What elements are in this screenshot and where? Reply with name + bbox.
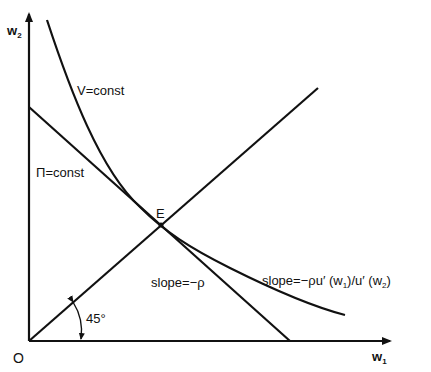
diagram-canvas (0, 0, 431, 372)
x-axis-label: w1 (372, 350, 387, 363)
v-const-label: V=const (77, 84, 124, 97)
v-const-curve (47, 20, 345, 315)
angle-label: 45° (86, 312, 106, 325)
slope-pi-label: slope=−ρ (151, 276, 205, 289)
slope-v-label: slope=−ρu′ (w1)/u′ (w2) (262, 274, 391, 287)
y-axis-label: w2 (7, 24, 22, 37)
45-degree-ray (29, 88, 318, 341)
pi-const-label: Π=const (36, 166, 84, 179)
point-e-marker (159, 223, 164, 228)
origin-label: O (13, 351, 24, 365)
point-e-label: E (156, 207, 165, 220)
angle-arc (73, 302, 82, 339)
